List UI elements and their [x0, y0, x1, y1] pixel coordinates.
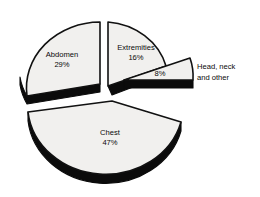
pie-slice-abdomen-value: 29%	[54, 60, 69, 69]
pie-slice-head-neck-label-line2: and other	[197, 73, 230, 82]
pie-slice-chest-value: 47%	[102, 138, 117, 147]
pie-slice-head-neck-depth	[124, 80, 193, 88]
pie-slice-head-neck-label-line1: Head, neck	[197, 62, 236, 71]
pie-chart-canvas: Chest 47% Abdomen 29% Extremities 16%	[0, 0, 260, 197]
pie-slice-extremities-label: Extremities	[117, 43, 155, 52]
pie-chart: Chest 47% Abdomen 29% Extremities 16%	[0, 0, 260, 197]
pie-slice-head-neck-value: 8%	[155, 69, 166, 78]
pie-slice-extremities-value: 16%	[128, 53, 143, 62]
pie-slice-chest-label: Chest	[100, 128, 121, 137]
pie-slice-abdomen-label: Abdomen	[46, 50, 79, 59]
